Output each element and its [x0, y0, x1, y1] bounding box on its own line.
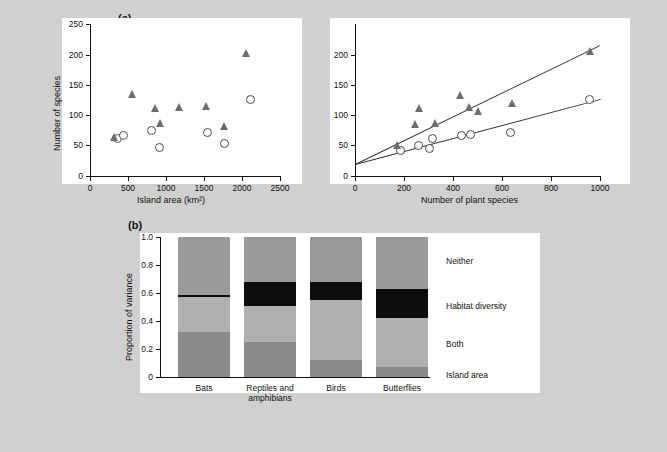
left-point-triangle	[242, 49, 250, 57]
bar-y-ticklabel-0: 0	[128, 372, 153, 382]
right-point-circle	[425, 144, 434, 153]
bar-bats-both	[178, 297, 230, 332]
left-y-ticklabel-250: 250	[58, 19, 83, 29]
left-y-tick-250	[86, 24, 90, 25]
right-y-tick-150	[351, 85, 355, 86]
right-y-tick-50	[351, 145, 355, 146]
left-y-ticklabel-200: 200	[58, 50, 83, 60]
right-y-ticklabel-0: 0	[325, 171, 348, 181]
right-x-ticklabel-400: 400	[443, 183, 463, 193]
bar-y-tick-08	[156, 265, 160, 266]
right-point-triangle	[465, 103, 473, 111]
right-x-ticklabel-600: 600	[492, 183, 512, 193]
right-x-tick-600	[502, 177, 503, 181]
right-point-triangle	[431, 119, 439, 127]
right-x-ticklabel-1000: 1000	[588, 183, 612, 193]
left-point-circle	[147, 126, 156, 135]
left-plot-background	[62, 18, 302, 184]
legend-label-both: Both	[446, 339, 536, 349]
legend-label-habitat-diversity: Habitat diversity	[446, 301, 546, 311]
bar-reptiles-habitat-diversity	[244, 282, 296, 306]
bar-y-ticklabel-10: 1.0	[128, 232, 153, 242]
right-plot-x-axis	[355, 176, 601, 177]
left-point-triangle	[202, 102, 210, 110]
right-x-tick-0	[355, 177, 356, 181]
bar-x-axis	[160, 377, 430, 378]
bar-category-butterflies: Butterflies	[372, 383, 432, 393]
panel-a: (a) 0 50 100 150 200 250 0 500 1000 1500…	[0, 0, 667, 215]
left-x-ticklabel-1500: 1500	[192, 183, 216, 193]
right-point-triangle	[411, 120, 419, 128]
left-y-ticklabel-0: 0	[58, 171, 83, 181]
right-point-circle	[457, 131, 466, 140]
right-y-tick-100	[351, 115, 355, 116]
right-x-axis-title: Number of plant species	[421, 195, 518, 205]
left-plot-y-axis	[90, 24, 91, 177]
right-point-circle	[506, 128, 515, 137]
bar-birds-neither	[310, 237, 362, 282]
bar-birds	[310, 237, 362, 377]
legend-label-neither: Neither	[446, 256, 536, 266]
bar-y-tick-02	[156, 349, 160, 350]
bar-reptiles-and-amphibians	[244, 237, 296, 377]
bar-category-birds: Birds	[310, 383, 362, 393]
right-x-ticklabel-200: 200	[394, 183, 414, 193]
bar-bats-habitat-diversity	[178, 295, 230, 298]
left-point-triangle	[110, 133, 118, 141]
left-x-tick-2500	[280, 177, 281, 181]
legend-label-island-area: Island area	[446, 370, 536, 380]
left-x-ticklabel-2000: 2000	[230, 183, 254, 193]
bar-category-reptiles-line1: Reptiles and	[240, 383, 300, 393]
left-y-axis-title: Number of species	[52, 76, 62, 151]
right-y-ticklabel-150: 150	[325, 80, 348, 90]
right-x-tick-1000	[600, 177, 601, 181]
right-point-circle	[466, 130, 475, 139]
left-x-ticklabel-500: 500	[118, 183, 138, 193]
bar-category-bats: Bats	[178, 383, 230, 393]
left-x-tick-2000	[242, 177, 243, 181]
panel-b: (b) 0 0.2 0.4 0.6 0.8 1.0 Proportion of …	[0, 215, 667, 415]
bar-butterflies-neither	[376, 237, 428, 289]
bar-birds-island-area	[310, 360, 362, 377]
bar-bats-neither	[178, 237, 230, 295]
right-point-triangle	[456, 91, 464, 99]
bar-reptiles-neither	[244, 237, 296, 282]
right-point-triangle	[474, 107, 482, 115]
left-x-tick-1000	[166, 177, 167, 181]
bar-birds-habitat-diversity	[310, 282, 362, 300]
bar-reptiles-island-area	[244, 342, 296, 377]
left-point-circle	[246, 95, 255, 104]
left-plot-x-axis	[90, 176, 281, 177]
left-point-circle	[119, 131, 128, 140]
bar-bats-island-area	[178, 332, 230, 377]
right-y-ticklabel-100: 100	[325, 110, 348, 120]
bar-y-tick-04	[156, 321, 160, 322]
left-point-triangle	[156, 119, 164, 127]
bar-y-axis	[160, 237, 161, 378]
right-point-triangle	[393, 141, 401, 149]
left-y-tick-150	[86, 85, 90, 86]
left-x-axis-title: Island area (km²)	[137, 195, 205, 205]
right-plot-y-axis	[355, 24, 356, 177]
right-point-circle	[414, 141, 423, 150]
bar-birds-both	[310, 300, 362, 360]
left-y-tick-200	[86, 55, 90, 56]
right-point-circle	[428, 134, 437, 143]
left-point-triangle	[175, 103, 183, 111]
right-y-ticklabel-200: 200	[325, 50, 348, 60]
left-point-circle	[220, 139, 229, 148]
left-point-circle	[155, 143, 164, 152]
bar-bats	[178, 237, 230, 377]
left-x-ticklabel-0: 0	[80, 183, 100, 193]
bar-butterflies-habitat-diversity	[376, 289, 428, 318]
bar-y-axis-title: Proportion of variance	[124, 273, 134, 361]
bar-y-tick-10	[156, 237, 160, 238]
left-y-tick-50	[86, 145, 90, 146]
left-x-ticklabel-1000: 1000	[154, 183, 178, 193]
panel-b-label: (b)	[128, 219, 142, 231]
bar-butterflies	[376, 237, 428, 377]
left-point-triangle	[220, 122, 228, 130]
bar-reptiles-both	[244, 306, 296, 342]
left-point-triangle	[151, 104, 159, 112]
right-point-circle	[585, 95, 594, 104]
